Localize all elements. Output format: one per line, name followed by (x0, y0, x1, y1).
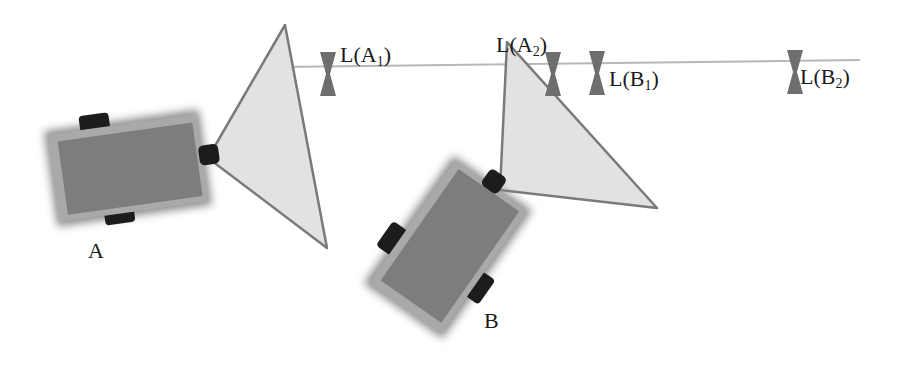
landmark-lb2: L(B2) (787, 50, 850, 94)
robot-a-label: A (88, 238, 104, 263)
landmark-label: L(B2) (800, 64, 850, 91)
robot-b-label: B (484, 308, 499, 333)
landmark-la1: L(A1) (320, 42, 391, 96)
landmark-label: L(B1) (609, 66, 659, 93)
sensor-cone-a (208, 25, 327, 248)
hourglass-marker-icon (545, 52, 561, 96)
robot-a (43, 98, 227, 233)
hourglass-marker-icon (320, 52, 336, 96)
diagram-canvas: L(A1)L(A2)L(B1)L(B2) A B (0, 0, 904, 366)
sensor-icon (198, 143, 221, 166)
landmark-label: L(A2) (496, 32, 547, 59)
hourglass-marker-icon (589, 51, 605, 95)
landmark-label: L(A1) (340, 42, 391, 69)
landmark-lb1: L(B1) (589, 51, 659, 95)
